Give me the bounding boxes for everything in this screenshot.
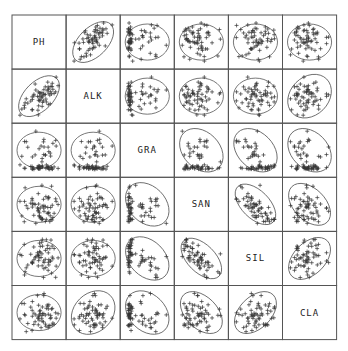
data-points xyxy=(234,183,276,225)
concentration-ellipse xyxy=(117,174,178,235)
data-points xyxy=(18,129,60,171)
data-points xyxy=(289,129,331,171)
data-points xyxy=(126,292,168,334)
scatter-cell-alk-vs-sil xyxy=(228,69,282,123)
data-points xyxy=(18,183,60,225)
cell-border xyxy=(174,69,228,123)
data-points xyxy=(126,183,168,225)
data-points xyxy=(126,237,168,279)
scatter-cell-cla-vs-gra xyxy=(117,282,178,343)
data-points xyxy=(72,21,114,63)
scatter-cell-cla-vs-ph xyxy=(12,286,66,340)
scatter-cell-sil-vs-ph xyxy=(12,231,66,285)
scatter-cell-ph-vs-alk xyxy=(65,14,121,70)
concentration-ellipse xyxy=(71,132,115,168)
data-points xyxy=(289,21,331,63)
matrix-cells: PHALKGRASANSILCLA xyxy=(11,14,340,343)
scatter-cell-alk-vs-gra xyxy=(120,69,174,123)
scatter-cell-sil-vs-alk xyxy=(66,231,120,285)
data-points xyxy=(126,75,168,117)
scatter-cell-sil-vs-cla xyxy=(281,230,339,288)
scatter-cell-gra-vs-ph xyxy=(12,123,66,177)
concentration-ellipse xyxy=(279,120,340,181)
data-points xyxy=(180,129,222,171)
scatter-cell-san-vs-ph xyxy=(12,177,66,231)
data-points xyxy=(180,237,222,279)
concentration-ellipse xyxy=(117,228,178,289)
concentration-ellipse xyxy=(62,282,123,343)
scatter-cell-gra-vs-cla xyxy=(279,120,340,181)
variable-label: CLA xyxy=(300,308,319,318)
scatter-cell-san-vs-alk xyxy=(66,177,120,231)
cell-border xyxy=(66,177,120,231)
data-points xyxy=(234,292,276,334)
scatter-cell-sil-vs-gra xyxy=(117,228,178,289)
diagonal-cell-cla: CLA xyxy=(283,286,337,340)
variable-label: GRA xyxy=(138,145,157,155)
scatter-cell-cla-vs-sil xyxy=(227,284,285,342)
data-points xyxy=(180,21,222,63)
scatter-cell-san-vs-gra xyxy=(117,174,178,235)
data-points xyxy=(289,237,331,279)
variable-label: PH xyxy=(33,37,46,47)
data-points xyxy=(289,75,331,117)
data-points xyxy=(234,75,276,117)
diagonal-cell-alk: ALK xyxy=(66,69,120,123)
data-points xyxy=(72,129,114,171)
scatter-cell-gra-vs-alk xyxy=(66,123,120,177)
diagonal-cell-gra: GRA xyxy=(120,123,174,177)
scatter-cell-san-vs-sil xyxy=(228,177,283,232)
concentration-ellipse xyxy=(225,120,286,181)
data-points xyxy=(72,292,114,334)
concentration-ellipse xyxy=(171,120,232,181)
scatter-cell-cla-vs-alk xyxy=(62,282,123,343)
diagonal-cell-san: SAN xyxy=(174,177,228,231)
data-points xyxy=(72,183,114,225)
scatter-cell-san-vs-cla xyxy=(281,175,339,233)
concentration-ellipse xyxy=(279,65,340,126)
data-points xyxy=(180,75,222,117)
data-points xyxy=(126,21,168,63)
data-points xyxy=(234,21,276,63)
data-points xyxy=(18,237,60,279)
data-points xyxy=(18,292,60,334)
scatter-cell-cla-vs-san xyxy=(172,284,230,342)
scatter-cell-sil-vs-san xyxy=(174,231,229,286)
variable-label: SIL xyxy=(246,253,265,263)
concentration-ellipse xyxy=(288,24,332,60)
diagonal-cell-ph: PH xyxy=(12,15,66,69)
scatter-cell-ph-vs-cla xyxy=(283,15,337,69)
scatter-cell-gra-vs-sil xyxy=(225,120,286,181)
data-points xyxy=(180,292,222,334)
scatter-cell-alk-vs-cla xyxy=(279,65,340,126)
variable-label: SAN xyxy=(192,199,211,209)
data-points xyxy=(18,75,60,117)
variable-label: ALK xyxy=(84,91,103,101)
scatter-cell-alk-vs-ph xyxy=(11,68,67,124)
scatter-cell-gra-vs-san xyxy=(171,120,232,181)
scatterplot-matrix: PHALKGRASANSILCLA xyxy=(0,0,348,351)
scatter-cell-ph-vs-gra xyxy=(120,15,174,69)
data-points xyxy=(289,183,331,225)
scatter-cell-ph-vs-san xyxy=(174,15,228,69)
scatter-cell-ph-vs-sil xyxy=(228,15,282,69)
diagonal-cell-sil: SIL xyxy=(228,231,282,285)
data-points xyxy=(72,237,114,279)
scatter-cell-alk-vs-san xyxy=(174,69,228,123)
data-points xyxy=(234,129,276,171)
concentration-ellipse xyxy=(117,282,178,343)
